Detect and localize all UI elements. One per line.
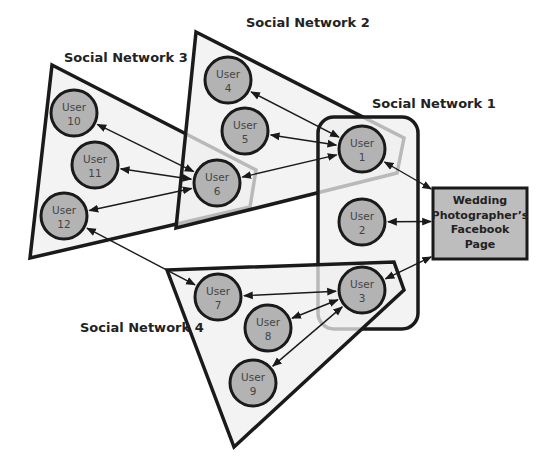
user-node-u7: User7 (195, 274, 241, 320)
user-label: User (233, 119, 258, 131)
user-number: 5 (242, 133, 249, 145)
user-circle (195, 274, 241, 320)
user-label: User (256, 316, 281, 328)
facebook-page-text: Wedding (453, 194, 507, 207)
user-node-u2: User2 (339, 199, 385, 245)
user-node-u9: User9 (230, 360, 276, 406)
user-circle (205, 57, 251, 103)
user-number: 11 (88, 167, 101, 179)
user-node-u5: User5 (222, 108, 268, 154)
user-circle (339, 126, 385, 172)
user-label: User (216, 68, 241, 80)
user-label: User (205, 171, 230, 183)
user-circle (339, 199, 385, 245)
user-node-u4: User4 (205, 57, 251, 103)
user-label: User (350, 210, 375, 222)
network-label-sn1: Social Network 1 (372, 96, 496, 111)
user-label: User (83, 153, 108, 165)
user-node-u10: User10 (51, 90, 97, 136)
user-circle (72, 142, 118, 188)
facebook-page-text: Photographer’s (432, 209, 529, 222)
facebook-page-text: Facebook (451, 223, 510, 236)
user-label: User (62, 101, 87, 113)
user-circle (41, 193, 87, 239)
user-circle (339, 267, 385, 313)
network-label-sn4: Social Network 4 (80, 320, 204, 335)
user-label: User (52, 204, 77, 216)
user-circle (51, 90, 97, 136)
user-circle (245, 305, 291, 351)
user-label: User (350, 137, 375, 149)
user-node-u6: User6 (194, 160, 240, 206)
network-label-sn3: Social Network 3 (64, 50, 188, 65)
network-label-sn2: Social Network 2 (246, 15, 370, 30)
user-number: 9 (250, 385, 257, 397)
user-circle (230, 360, 276, 406)
user-label: User (241, 371, 266, 383)
user-node-u8: User8 (245, 305, 291, 351)
user-number: 2 (359, 224, 366, 236)
user-number: 6 (214, 185, 221, 197)
user-number: 4 (225, 82, 232, 94)
user-number: 8 (265, 330, 272, 342)
user-circle (222, 108, 268, 154)
social-network-diagram: User1User2User3User4User5User6User7User8… (0, 0, 552, 475)
arrow-u12-u7 (87, 228, 195, 285)
facebook-page-text: Page (465, 238, 496, 251)
user-number: 3 (359, 292, 366, 304)
user-label: User (206, 285, 231, 297)
user-number: 1 (359, 151, 366, 163)
user-circle (194, 160, 240, 206)
user-number: 7 (215, 299, 222, 311)
user-node-u3: User3 (339, 267, 385, 313)
user-number: 12 (57, 218, 70, 230)
user-number: 10 (67, 115, 80, 127)
user-node-u11: User11 (72, 142, 118, 188)
user-node-u1: User1 (339, 126, 385, 172)
user-node-u12: User12 (41, 193, 87, 239)
user-label: User (350, 278, 375, 290)
facebook-page-box: WeddingPhotographer’sFacebookPage (432, 188, 529, 259)
